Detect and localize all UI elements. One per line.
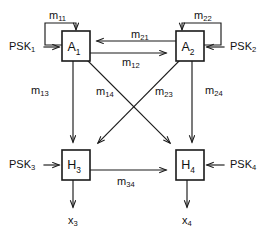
input-psk3-label: PSK3 (9, 158, 35, 172)
edge-m34: m34 (90, 170, 166, 189)
input-psk4: PSK4 (207, 158, 256, 172)
edge-m13: m13 (31, 61, 73, 142)
input-psk3: PSK3 (9, 158, 59, 172)
edge-m24: m24 (192, 61, 223, 142)
input-psk1-label: PSK1 (9, 40, 35, 54)
edge-m23: m23 (98, 61, 179, 143)
block-h4[interactable]: H4 (176, 150, 204, 180)
edge-m11-label: m11 (49, 9, 66, 23)
edge-m21: m21 (97, 28, 176, 42)
edge-m12: m12 (90, 53, 166, 70)
edge-m14: m14 (88, 61, 170, 143)
edge-m14-label: m14 (96, 85, 114, 99)
edge-m12-label: m12 (122, 56, 140, 70)
output-x4: x4 (182, 180, 192, 228)
edge-m21-label: m21 (131, 28, 149, 42)
edge-m23-path (98, 61, 179, 143)
diagram-canvas: m11 m22 m21 m12 m13 m24 m1 (0, 0, 276, 235)
edge-m34-label: m34 (117, 175, 135, 189)
edge-m22-label: m22 (194, 9, 212, 23)
output-x4-label: x4 (182, 214, 192, 228)
edge-m13-label: m13 (31, 84, 49, 98)
block-diagram: m11 m22 m21 m12 m13 m24 m1 (0, 0, 276, 235)
edge-m24-label: m24 (205, 84, 223, 98)
input-psk1: PSK1 (9, 40, 59, 54)
block-h3[interactable]: H3 (62, 150, 90, 180)
output-x3-label: x3 (68, 214, 78, 228)
input-psk2-label: PSK2 (230, 40, 256, 54)
input-psk2: PSK2 (207, 40, 256, 54)
edge-m14-path (88, 61, 170, 143)
output-x3: x3 (68, 180, 78, 228)
block-a2[interactable]: A2 (176, 31, 204, 61)
block-a1[interactable]: A1 (62, 31, 90, 61)
input-psk4-label: PSK4 (230, 158, 256, 172)
edge-m23-label: m23 (155, 85, 173, 99)
